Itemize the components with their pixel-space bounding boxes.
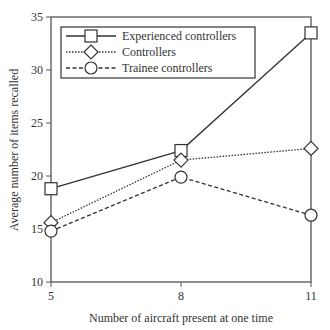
y-tick-label: 25 xyxy=(31,116,43,130)
y-tick-label: 30 xyxy=(31,63,43,77)
series-controllers xyxy=(44,141,318,229)
circle-marker xyxy=(175,171,187,183)
y-tick-label: 15 xyxy=(31,222,43,236)
circle-icon xyxy=(85,62,97,74)
series-trainee-controllers xyxy=(45,171,317,237)
circle-marker xyxy=(305,209,317,221)
x-tick-label: 11 xyxy=(305,289,317,303)
x-axis-label: Number of aircraft present at one time xyxy=(89,311,273,325)
y-tick-label: 10 xyxy=(31,275,43,289)
y-tick-label: 20 xyxy=(31,169,43,183)
legend-label: Controllers xyxy=(122,45,176,59)
legend-label: Experienced controllers xyxy=(122,29,237,43)
legend-item: Trainee controllers xyxy=(66,61,213,75)
square-marker xyxy=(305,27,317,39)
square-icon xyxy=(85,30,97,42)
legend-label: Trainee controllers xyxy=(122,61,213,75)
line-chart: 1015202530355811 Experienced controllers… xyxy=(0,0,330,330)
square-marker xyxy=(45,183,57,195)
y-axis-label: Average number of items recalled xyxy=(7,69,21,231)
legend: Experienced controllersControllersTraine… xyxy=(61,27,255,78)
x-tick-label: 8 xyxy=(178,289,184,303)
legend-item: Experienced controllers xyxy=(66,29,237,43)
x-tick-label: 5 xyxy=(48,289,54,303)
diamond-marker xyxy=(304,141,318,155)
y-tick-label: 35 xyxy=(31,10,43,24)
circle-marker xyxy=(45,225,57,237)
